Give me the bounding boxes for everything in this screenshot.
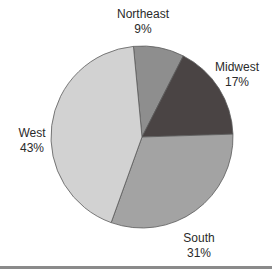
label-northeast-name: Northeast [106, 7, 180, 22]
bottom-rule [0, 266, 272, 269]
label-south-name: South [169, 231, 229, 246]
label-midwest: Midwest 17% [202, 60, 272, 90]
label-west-pct: 43% [2, 141, 62, 156]
label-midwest-pct: 17% [202, 75, 272, 90]
label-south-pct: 31% [169, 246, 229, 261]
label-west-name: West [2, 126, 62, 141]
label-south: South 31% [169, 231, 229, 261]
label-midwest-name: Midwest [202, 60, 272, 75]
label-northeast: Northeast 9% [106, 7, 180, 37]
label-northeast-pct: 9% [106, 22, 180, 37]
label-west: West 43% [2, 126, 62, 156]
